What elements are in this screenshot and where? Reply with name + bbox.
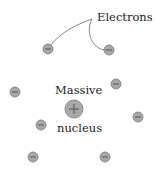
electron xyxy=(10,87,20,97)
massive-label: Massive xyxy=(55,83,102,97)
electron xyxy=(28,152,38,162)
electrons-label: Electrons xyxy=(97,10,153,24)
electron xyxy=(36,120,46,130)
nucleus-label: nucleus xyxy=(57,121,102,135)
electron xyxy=(133,112,143,122)
electron xyxy=(100,152,110,162)
electron xyxy=(43,44,53,54)
electron xyxy=(111,79,121,89)
electron xyxy=(104,45,114,55)
leader-line-left xyxy=(51,19,92,45)
nucleus xyxy=(65,100,83,118)
